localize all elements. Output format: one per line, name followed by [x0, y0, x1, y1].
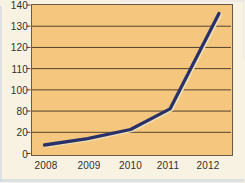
scanned-line-chart-page: { "chart_data": { "type": "line", "title… — [0, 0, 244, 182]
x-axis-label: 2012 — [187, 160, 229, 171]
scan-edge-top — [120, 0, 244, 2]
y-axis-label: 130 — [2, 21, 28, 32]
data-line — [45, 14, 220, 146]
y-axis-label: 0 — [2, 149, 28, 160]
x-axis-label: 2011 — [147, 160, 189, 171]
x-axis-label: 2008 — [25, 160, 67, 171]
y-axis-label: 110 — [2, 64, 28, 75]
chart-plot-area — [31, 4, 233, 156]
x-axis-label: 2010 — [110, 160, 152, 171]
y-axis-label: 120 — [2, 42, 28, 53]
chart-canvas — [32, 5, 231, 154]
y-axis-label: 140 — [2, 0, 28, 11]
x-axis-label: 2009 — [68, 160, 110, 171]
scan-edge-bottom — [0, 179, 244, 183]
scan-edge-right — [243, 0, 245, 60]
y-axis-label: 80 — [2, 106, 28, 117]
y-axis-label: 100 — [2, 85, 28, 96]
y-axis-label: 20 — [2, 127, 28, 138]
